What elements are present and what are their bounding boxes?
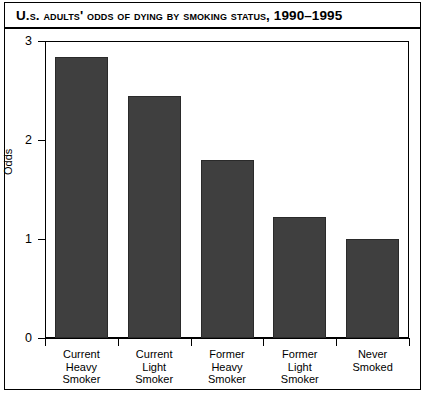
y-tick-label: 2: [4, 133, 32, 147]
x-axis-line: [45, 338, 409, 339]
x-axis-label-line: Light: [263, 361, 336, 374]
y-tick-label: 0: [4, 331, 32, 345]
x-axis-category-label: CurrentHeavySmoker: [45, 348, 118, 386]
x-axis-category-label: NeverSmoked: [336, 348, 409, 373]
x-axis-label-line: Current: [45, 348, 118, 361]
x-axis-category-label: FormerLightSmoker: [263, 348, 336, 386]
y-tick-label: 3: [4, 34, 32, 48]
x-axis-category-label: CurrentLightSmoker: [118, 348, 191, 386]
x-tick-mark: [409, 338, 410, 346]
x-axis-label-line: Smoker: [118, 373, 191, 386]
bar: [128, 96, 181, 338]
y-tick-mark: [38, 41, 45, 42]
y-tick-mark: [38, 239, 45, 240]
x-axis-label-line: Smoked: [336, 361, 409, 374]
bar: [55, 57, 108, 338]
x-axis-category-label: FormerHeavySmoker: [191, 348, 264, 386]
x-axis-label-line: Heavy: [191, 361, 264, 374]
x-axis-label-line: Former: [191, 348, 264, 361]
x-axis-label-line: Heavy: [45, 361, 118, 374]
title-band: U.S. Adults' Odds of Dying by Smoking St…: [5, 3, 420, 29]
bars-layer: [45, 41, 409, 338]
x-tick-mark: [263, 338, 264, 346]
y-tick-mark: [38, 140, 45, 141]
x-tick-mark: [118, 338, 119, 346]
x-tick-mark: [191, 338, 192, 346]
x-axis-label-line: Light: [118, 361, 191, 374]
bar: [346, 239, 399, 338]
x-axis-label-line: Smoker: [45, 373, 118, 386]
x-tick-mark: [45, 338, 46, 346]
chart-figure: U.S. Adults' Odds of Dying by Smoking St…: [0, 0, 428, 393]
bar: [201, 160, 254, 338]
x-axis-label-line: Smoker: [191, 373, 264, 386]
y-tick-label: 1: [4, 232, 32, 246]
x-axis-label-line: Never: [336, 348, 409, 361]
chart-title: U.S. Adults' Odds of Dying by Smoking St…: [5, 8, 342, 23]
x-axis-label-line: Current: [118, 348, 191, 361]
y-axis-title: Odds: [2, 149, 14, 175]
x-axis-label-line: Smoker: [263, 373, 336, 386]
x-tick-mark: [336, 338, 337, 346]
bar: [273, 217, 326, 338]
x-axis-label-line: Former: [263, 348, 336, 361]
y-tick-mark: [38, 338, 45, 339]
